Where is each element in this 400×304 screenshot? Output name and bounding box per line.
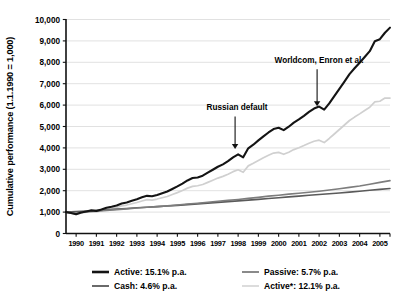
y-tick-label: 10,000: [35, 16, 60, 25]
chart-figure: 01,0002,0003,0004,0005,0006,0007,0008,00…: [0, 0, 400, 304]
y-tick-label: 2,000: [40, 187, 61, 196]
x-tick-label: 1991: [89, 239, 105, 248]
y-tick-label: 6,000: [40, 101, 61, 110]
legend-label: Active: 15.1% p.a.: [114, 267, 187, 277]
legend-label: Passive: 5.7% p.a.: [264, 267, 338, 277]
y-tick-label: 0: [55, 230, 60, 239]
x-tick-label: 1998: [230, 239, 246, 248]
x-tick-label: 1996: [190, 239, 206, 248]
x-tick-label: 1999: [251, 239, 267, 248]
y-axis-title: Cumulative performance (1.1.1990 = 1,000…: [5, 37, 15, 217]
y-tick-label: 7,000: [40, 80, 61, 89]
legend-label: Active*: 12.1% p.a.: [264, 281, 340, 291]
annotation-label: Russian default: [207, 103, 268, 112]
x-tick-label: 1994: [149, 239, 166, 248]
legend-label: Cash: 4.6% p.a.: [114, 281, 177, 291]
x-tick-label: 2001: [291, 239, 307, 248]
y-axis-title-text: Cumulative performance (1.1.1990 = 1,000…: [5, 37, 15, 217]
chart-background: [0, 0, 400, 304]
y-tick-label: 3,000: [40, 165, 61, 174]
y-tick-label: 5,000: [40, 123, 61, 132]
x-tick-label: 1993: [129, 239, 145, 248]
y-tick-label: 1,000: [40, 208, 61, 217]
x-tick-label: 2000: [271, 239, 287, 248]
cumulative-performance-line-chart: 01,0002,0003,0004,0005,0006,0007,0008,00…: [0, 0, 400, 304]
y-tick-label: 4,000: [40, 144, 61, 153]
x-tick-label: 2003: [332, 239, 348, 248]
y-tick-label: 9,000: [40, 37, 61, 46]
annotation-label: Worldcom, Enron et al.: [275, 56, 364, 65]
x-tick-label: 1992: [109, 239, 125, 248]
x-tick-label: 1995: [170, 239, 186, 248]
x-tick-label: 1997: [210, 239, 226, 248]
x-tick-label: 1990: [68, 239, 84, 248]
x-tick-label: 2005: [372, 239, 388, 248]
y-tick-label: 8,000: [40, 58, 61, 67]
x-tick-label: 2004: [352, 239, 369, 248]
x-tick-label: 2002: [311, 239, 327, 248]
